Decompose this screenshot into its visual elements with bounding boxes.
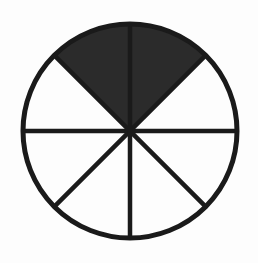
fraction-circle-diagram: Circle divided into eight equal sectors … — [0, 0, 258, 263]
fraction-circle-svg: Circle divided into eight equal sectors … — [0, 0, 258, 263]
